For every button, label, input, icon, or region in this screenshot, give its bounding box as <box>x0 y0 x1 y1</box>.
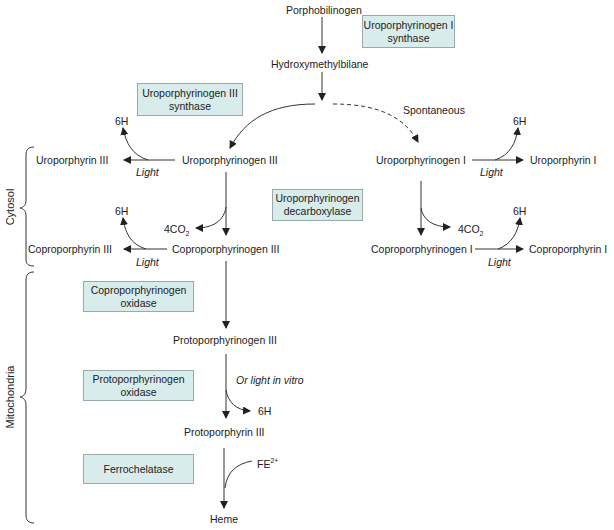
condition-light-uro-iii: Light <box>136 166 159 178</box>
enzyme-protoporphyrinogen-oxidase: Protoporphyrinogenoxidase <box>83 370 194 401</box>
compound-uroporphyrinogen-i: Uroporphyrinogen I <box>376 154 466 166</box>
byproduct-4co2-i: 4CO2 <box>458 223 484 240</box>
cofactor-fe2: FE2+ <box>257 455 278 470</box>
enzyme-coproporphyrinogen-oxidase: Coproporphyrinogenoxidase <box>83 281 194 312</box>
compound-protoporphyrinogen-iii: Protoporphyrinogen III <box>173 334 277 346</box>
compound-heme: Heme <box>210 513 238 525</box>
pathway-arrows <box>0 0 614 530</box>
condition-light-copro-i: Light <box>488 256 511 268</box>
byproduct-4co2-iii: 4CO2 <box>164 223 190 240</box>
condition-light-uro-i: Light <box>480 166 503 178</box>
byproduct-6h-uro-i: 6H <box>513 115 526 127</box>
byproduct-6h-copro-i: 6H <box>513 205 526 217</box>
condition-light-in-vitro: Or light in vitro <box>236 374 304 386</box>
compartment-mitochondria: Mitochondria <box>4 364 16 430</box>
compound-coproporphyrin-iii: Coproporphyrin III <box>28 243 112 255</box>
compound-hydroxymethylbilane: Hydroxymethylbilane <box>271 58 368 70</box>
enzyme-uroporphyrinogen-decarboxylase: Uroporphyrinogendecarboxylase <box>272 189 363 221</box>
compound-porphobilinogen: Porphobilinogen <box>286 4 362 16</box>
compound-coproporphyrin-i: Coproporphyrin I <box>529 243 607 255</box>
compound-coproporphyrinogen-iii: Coproporphyrinogen III <box>172 243 279 255</box>
byproduct-6h-uro-iii: 6H <box>115 115 128 127</box>
byproduct-6h-copro-iii: 6H <box>115 205 128 217</box>
compound-uroporphyrinogen-iii: Uroporphyrinogen III <box>182 154 278 166</box>
enzyme-uroporphyrinogen-iii-synthase: Uroporphyrinogen IIIsynthase <box>137 83 243 116</box>
condition-light-copro-iii: Light <box>136 256 159 268</box>
compound-uroporphyrin-i: Uroporphyrin I <box>530 154 597 166</box>
compound-coproporphyrinogen-i: Coproporphyrinogen I <box>371 243 473 255</box>
enzyme-ferrochelatase: Ferrochelatase <box>83 454 194 484</box>
compartment-cytosol: Cytosol <box>4 187 16 227</box>
byproduct-6h-proto: 6H <box>258 405 271 417</box>
enzyme-uroporphyrinogen-i-synthase: Uroporphyrinogen Isynthase <box>362 15 455 48</box>
compound-uroporphyrin-iii: Uroporphyrin III <box>36 154 108 166</box>
label-spontaneous: Spontaneous <box>403 104 465 116</box>
compound-protoporphyrin-iii: Protoporphyrin III <box>184 426 265 438</box>
